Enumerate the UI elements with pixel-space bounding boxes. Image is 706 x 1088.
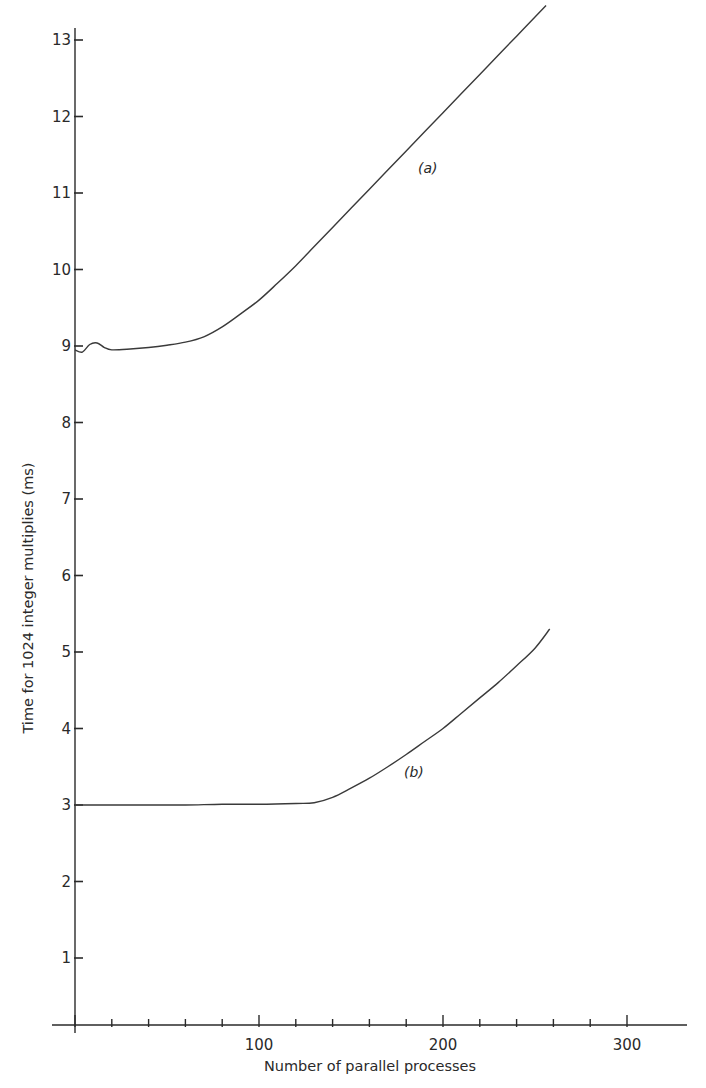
y-tick-label: 2 bbox=[61, 873, 71, 891]
x-tick-label: 300 bbox=[613, 1036, 642, 1054]
x-axis-title: Number of parallel processes bbox=[264, 1058, 476, 1074]
y-tick-label: 12 bbox=[52, 108, 71, 126]
y-axis-title: Time for 1024 integer multiplies (ms) bbox=[20, 462, 36, 733]
y-tick-label: 1 bbox=[61, 949, 71, 967]
axes bbox=[52, 28, 687, 1033]
y-tick-label: 8 bbox=[61, 414, 71, 432]
x-axis-ticks: 100200300 bbox=[75, 1015, 641, 1054]
x-tick-label: 100 bbox=[245, 1036, 274, 1054]
y-tick-label: 10 bbox=[52, 261, 71, 279]
y-tick-label: 11 bbox=[52, 184, 71, 202]
y-tick-label: 5 bbox=[61, 643, 71, 661]
y-tick-label: 3 bbox=[61, 796, 71, 814]
curve-b-label: (b) bbox=[404, 764, 424, 780]
series-a-line bbox=[75, 6, 546, 353]
y-axis-ticks: 12345678910111213 bbox=[52, 31, 83, 967]
series-b-line bbox=[75, 629, 550, 805]
y-tick-label: 9 bbox=[61, 337, 71, 355]
line-chart: 12345678910111213 100200300 bbox=[0, 0, 706, 1088]
y-tick-label: 4 bbox=[61, 720, 71, 738]
x-tick-label: 200 bbox=[429, 1036, 458, 1054]
data-series bbox=[75, 6, 550, 805]
y-tick-label: 7 bbox=[61, 490, 71, 508]
curve-a-label: (a) bbox=[418, 160, 438, 176]
y-tick-label: 13 bbox=[52, 31, 71, 49]
y-tick-label: 6 bbox=[61, 567, 71, 585]
